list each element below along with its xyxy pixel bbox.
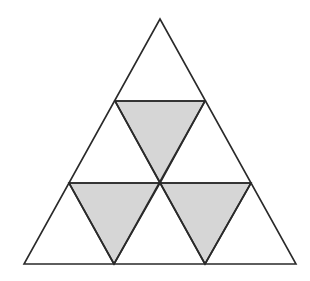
triangle-diagram [0, 0, 310, 281]
